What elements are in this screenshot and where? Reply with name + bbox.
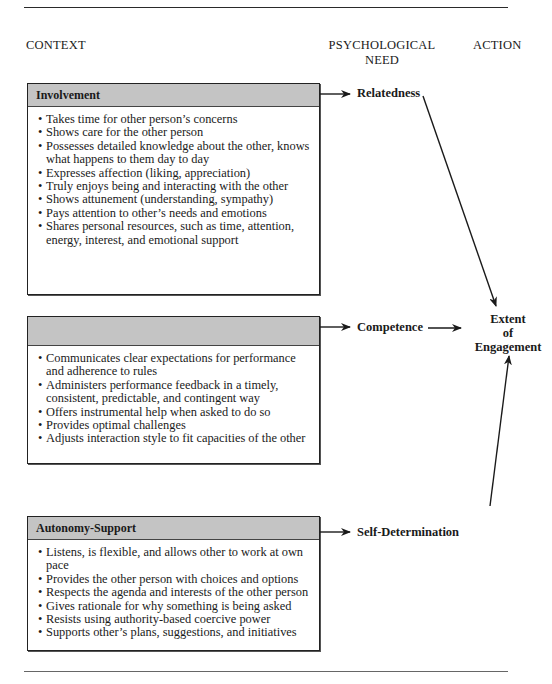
arrow-self-determination-to-engagement — [490, 356, 509, 506]
arrow-layer — [0, 0, 552, 684]
bottom-rule — [24, 671, 508, 672]
arrow-relatedness-to-engagement — [423, 96, 496, 306]
